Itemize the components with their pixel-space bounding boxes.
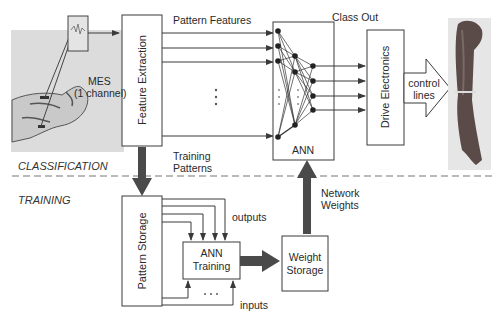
classification-section-label: CLASSIFICATION [18,160,108,172]
ann-training-label-1: ANN [183,247,240,259]
weight-storage-label-1: Weight [282,251,328,263]
training-patterns-arrow [132,147,152,196]
training-patterns-label-1: Training [173,150,211,162]
control-lines-label-2: lines [404,89,444,101]
vertical-ellipsis-icon [215,89,217,105]
ann-block [273,22,334,160]
weights-transfer-arrow [240,250,280,272]
control-lines-label-1: control [404,77,444,89]
training-patterns-label-2: Patterns [173,162,212,174]
network-weights-label-2: Weights [321,199,359,211]
pattern-features-label: Pattern Features [173,14,251,26]
pattern-storage-label: Pattern Storage [136,201,148,301]
mes-channel-label: (1 channel) [74,87,127,99]
weight-storage-label-2: Storage [282,264,328,276]
network-weights-label-1: Network [321,187,360,199]
class-out-label: Class Out [332,11,378,23]
horizontal-ellipsis-icon [204,293,218,295]
ann-training-label-2: Training [183,260,240,272]
drive-electronics-label: Drive Electronics [379,37,391,137]
prosthetic-arm-photo [448,18,491,170]
training-section-label: TRAINING [18,194,71,206]
outputs-label: outputs [232,211,266,223]
inputs-lines [162,281,233,305]
outputs-lines [162,199,225,240]
ann-label: ANN [292,144,314,156]
inputs-label: inputs [240,299,268,311]
feature-extraction-label: Feature Extraction [136,30,148,130]
network-weights-arrow [297,160,317,234]
pattern-feature-arrows [162,33,273,136]
mes-label: MES [88,75,111,87]
